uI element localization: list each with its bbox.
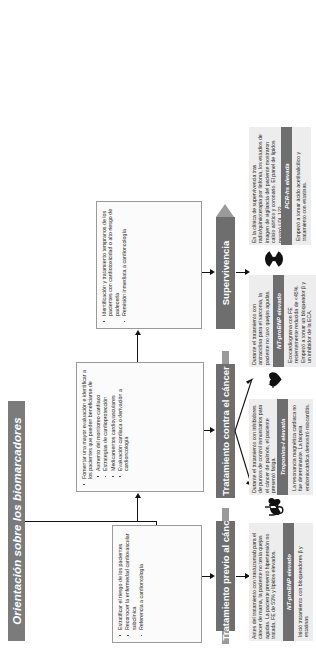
biomarker-badge: NT-proBNP elevado — [283, 523, 291, 641]
timeline-arrow-icon — [216, 204, 234, 217]
guidance-item: Aumento del monitoreo cardiaco — [95, 368, 101, 487]
phase-label: Tratamiento contra el cáncer — [220, 366, 231, 495]
guidance-item: Evaluación cardiaca o derivación a cardi… — [117, 368, 130, 487]
guidance-box-during-treatment: Fomentar una mayor evaluación e identifi… — [76, 362, 204, 492]
guidance-lead: Fomentar una mayor evaluación e identifi… — [81, 368, 94, 487]
guidance-item: Medicamentos cardiovasculares — [110, 368, 116, 487]
guidance-item: Remisión inmediata a cardioncología — [121, 207, 127, 324]
guidance-item: Estratificar el riesgo de los pacientes — [117, 531, 123, 638]
timeline-connector — [222, 351, 229, 364]
arrow-down-surv — [210, 270, 215, 276]
heart-icon — [264, 368, 286, 390]
biomarker-badge: PCR-hs elevada — [281, 127, 291, 245]
phase-label: Supervivencia — [220, 241, 231, 305]
diagram-canvas: Orientación sobre los biomarcadores Estr… — [0, 0, 291, 655]
phase-banner-pre-treatment: Tratamiento previo al cáncer — [216, 521, 235, 631]
radiation-icon — [264, 249, 284, 269]
guidance-item: Identificación y tratamiento tempranos d… — [101, 207, 120, 324]
case-history-text: Durante el tratamiento con antraciclina … — [251, 277, 270, 365]
lungs-icon — [262, 496, 284, 518]
phase-banner-survivorship: Supervivencia — [216, 217, 235, 329]
guidance-box-pre-treatment: Estratificar el riesgo de los pacientes … — [112, 525, 202, 643]
guidance-item: Referencia a cardioncología — [138, 531, 144, 638]
case-action-text: Ecocardiograma con FE recientemente redu… — [284, 275, 291, 367]
during-to-surv-line — [137, 334, 138, 362]
guidance-item: Reconocer la enfermedad cardiovascular s… — [124, 531, 137, 638]
biomarker-badge: NT-proBNP elevado — [273, 275, 284, 367]
title-branch-right — [137, 497, 138, 522]
arrow-down-during — [210, 428, 215, 434]
case-history-text: Antes del tratamiento con trastuzumab pa… — [251, 525, 277, 639]
guidance-item: Estrategias de cardioprotección — [102, 368, 108, 487]
arrow-down-pre — [210, 574, 215, 580]
arrow-into-during-box — [135, 493, 141, 498]
case-action-text: La resonancia magnética cardiaca no fue … — [288, 399, 291, 495]
timeline-connector — [222, 508, 229, 521]
case-history-text: Durante el tratamiento con inhibidores d… — [251, 401, 277, 493]
case-history-text: En la clínica de supervivencia tras radi… — [251, 129, 283, 243]
biomarker-guidance-figure: Orientación sobre los biomarcadores Estr… — [0, 0, 291, 655]
phase-banner-during-treatment: Tratamiento contra el cáncer — [216, 364, 235, 498]
arrow-into-surv-box — [135, 330, 141, 335]
guidance-box-survivorship: Identificación y tratamiento tempranos d… — [96, 201, 202, 329]
biomarker-badge: Troponina-I elevada — [277, 399, 288, 495]
figure-title: Orientación sobre los biomarcadores — [8, 401, 25, 641]
phase-label: Tratamiento previo al cáncer — [220, 512, 231, 641]
